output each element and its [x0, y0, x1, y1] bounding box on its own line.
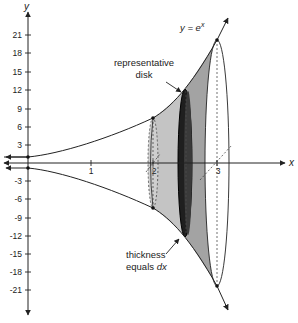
y-tick-label: 15	[13, 67, 23, 77]
point	[151, 206, 155, 210]
point	[215, 284, 219, 288]
y-tick-label: 6	[17, 122, 22, 132]
y-tick-label: 18	[13, 48, 23, 58]
y-axis-label: y	[23, 1, 30, 12]
y-tick-label: -6	[14, 194, 22, 204]
point	[26, 155, 30, 159]
y-tick-label: -21	[10, 285, 23, 295]
y-tick-label: -15	[10, 249, 23, 259]
x-axis-label: x	[288, 157, 295, 168]
annotation-representative-disk: representative disk	[114, 57, 181, 92]
curve-label: y = ex	[179, 21, 205, 33]
y-tick-label: 9	[17, 104, 22, 114]
x-tick-label: 1	[89, 166, 94, 176]
svg-text:representative: representative	[114, 57, 174, 68]
point	[215, 38, 219, 42]
point	[26, 166, 30, 170]
svg-text:disk: disk	[136, 69, 153, 80]
point	[151, 116, 155, 120]
disk-method-diagram: 21 18 15 12 9 6 3 -3 -6 -9 -12 -15 -18 -…	[0, 0, 298, 323]
y-tick-label: -3	[14, 176, 22, 186]
annotation-thickness: thickness equals dx	[126, 239, 179, 272]
y-tick-label: -18	[10, 267, 23, 277]
y-tick-label: 3	[17, 140, 22, 150]
y-tick-label: -12	[10, 231, 23, 241]
svg-text:thickness: thickness	[126, 249, 166, 260]
x-tick-label: 3	[216, 166, 221, 176]
x-tick-label: 2	[152, 166, 157, 176]
y-tick-label: -9	[14, 213, 22, 223]
y-tick-label: 21	[13, 30, 23, 40]
svg-text:equals dx: equals dx	[126, 261, 168, 272]
y-tick-label: 12	[13, 85, 23, 95]
